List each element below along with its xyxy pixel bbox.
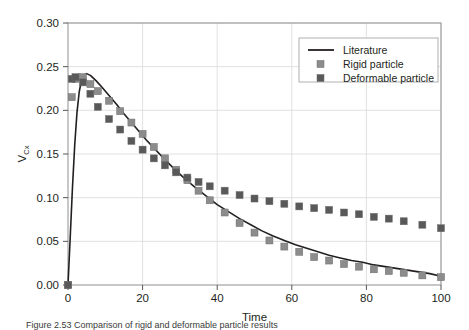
x-tick-label: 40 — [211, 292, 224, 304]
x-tick-label: 60 — [285, 292, 298, 304]
y-tick-label: 0.15 — [37, 148, 59, 160]
x-tick-label: 80 — [360, 292, 373, 304]
x-tick-label: 100 — [431, 292, 450, 304]
x-tick-label: 0 — [65, 292, 71, 304]
y-tick-label: 0.20 — [37, 104, 59, 116]
legend-label: Literature — [343, 44, 388, 56]
y-tick-label: 0.05 — [37, 235, 59, 247]
legend-label: Rigid particle — [343, 58, 404, 70]
x-tick-label: 20 — [136, 292, 149, 304]
y-tick-label: 0.10 — [37, 192, 59, 204]
y-tick-label: 0.25 — [37, 61, 59, 73]
y-tick-label: 0.00 — [37, 279, 59, 291]
figure-caption: Figure 2.53 Comparison of rigid and defo… — [26, 320, 278, 330]
legend-label: Deformable particle — [343, 72, 434, 84]
chart-legend: LiteratureRigid particleDeformable parti… — [299, 38, 438, 84]
y-tick-label: 0.30 — [37, 17, 59, 29]
